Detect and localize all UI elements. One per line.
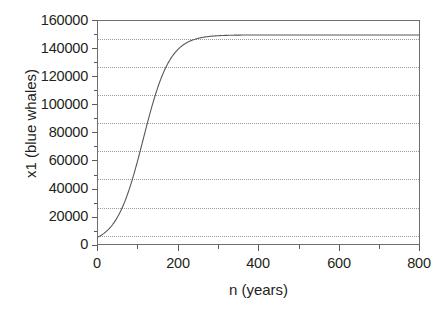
x-tick-label: 0 [77,256,117,271]
y-tick-label: 80000 [49,125,88,140]
y-tick-label: 100000 [41,97,88,112]
data-series-line [98,35,419,237]
x-tick-label: 600 [319,256,359,271]
chart-figure: x1 (blue whales) 160000 140000 120000 10… [0,0,441,312]
x-axis-minor-tick [137,245,138,249]
y-tick-label: 140000 [41,41,88,56]
x-axis-tick [97,245,98,251]
y-axis-title: x1 (blue whales) [23,14,38,234]
y-tick-label: 0 [80,237,88,252]
x-tick-label: 800 [399,256,439,271]
x-axis-minor-tick [299,245,300,249]
x-axis-minor-tick [379,245,380,249]
y-tick-label: 40000 [49,181,88,196]
x-axis-tick [339,245,340,251]
y-tick-label: 20000 [49,209,88,224]
series-svg [98,21,419,244]
x-axis-minor-tick [218,245,219,249]
x-tick-label: 400 [238,256,278,271]
x-axis-tick [258,245,259,251]
y-tick-label: 120000 [41,69,88,84]
x-tick-label: 200 [158,256,198,271]
y-tick-label: 160000 [41,13,88,28]
x-axis-title: n (years) [97,282,420,297]
x-axis-tick [178,245,179,251]
plot-area [97,20,420,245]
y-tick-label: 60000 [49,153,88,168]
x-axis-tick [419,245,420,251]
